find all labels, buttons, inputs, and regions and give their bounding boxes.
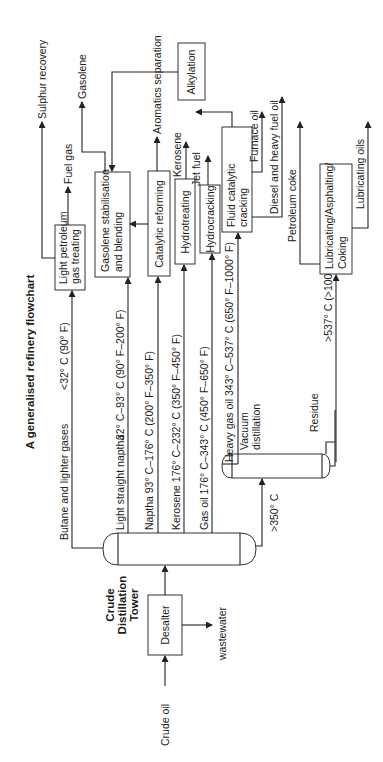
diagram-title: A generalised refinery flowchart — [24, 274, 36, 449]
butane-temp: <32° C (90° F) — [58, 322, 70, 390]
svg-text:and blending: and blending — [112, 212, 124, 272]
lsn-label: Light straight naptha — [114, 435, 126, 530]
crude-tower-label: Crude Distillation Tower — [104, 576, 140, 635]
lubricating-box: Lubricating/Asphalting/ Coking — [320, 163, 352, 274]
crude-distillation-tower — [103, 533, 256, 565]
fuelgas-label: Fuel gas — [62, 144, 74, 184]
lpg-treating-box: Light petroleum gas treating — [55, 211, 85, 290]
svg-text:Alkylation: Alkylation — [185, 49, 197, 94]
svg-text:Gasolene stabilisation: Gasolene stabilisation — [99, 169, 111, 272]
kerosene-stream-label: Kerosene 176° C–232° C (350° F–450° F) — [170, 334, 182, 530]
gasolene-arrow — [82, 102, 105, 172]
kerosene-product-label: Kerosene — [171, 132, 183, 177]
svg-text:Coking: Coking — [336, 236, 348, 269]
svg-text:distillation: distillation — [250, 404, 262, 450]
crude-oil-label: Crude oil — [159, 704, 171, 746]
hgo-label: Heavy gas oil 343° C–537° C (650° F–1000… — [223, 242, 235, 462]
svg-text:Distillation: Distillation — [116, 576, 128, 635]
svg-text:Lubricating/Asphalting/: Lubricating/Asphalting/ — [323, 163, 335, 269]
residue-label: Residue — [308, 393, 320, 432]
lsn-temp: 32° C–93° C (90° F–200° F) — [114, 309, 126, 440]
svg-text:gas treating: gas treating — [69, 229, 81, 284]
furnace-label: Furnace oil — [248, 110, 260, 162]
bottoms-label: >350° C — [268, 493, 280, 532]
svg-text:Tower: Tower — [128, 588, 140, 622]
hydrotreating-box: Hydrotreating — [175, 179, 195, 264]
coke-arrow — [300, 122, 320, 264]
hydrocracking-box: Hydrocracking — [200, 185, 220, 253]
gasolene-label: Gasolene — [76, 54, 88, 99]
svg-text:Light petroleum: Light petroleum — [57, 211, 69, 284]
sulphur-arrow — [42, 122, 55, 258]
alky-to-blending-line — [112, 72, 178, 171]
butane-line — [72, 291, 103, 548]
refinery-flowchart: A generalised refinery flowchart Crude o… — [0, 0, 383, 762]
svg-text:Vacuum: Vacuum — [238, 412, 250, 450]
wastewater-label: wastewater — [216, 606, 228, 661]
bottoms-line — [256, 479, 262, 546]
diesel-label: Diesel and heavy fuel oil — [268, 100, 280, 214]
svg-text:Crude: Crude — [104, 588, 116, 621]
svg-text:Fluid catalytic: Fluid catalytic — [225, 163, 237, 227]
sulphur-label: Sulphur recovery — [36, 39, 48, 119]
aromatics-label: Aromatics separation — [151, 35, 163, 134]
fcc-to-alky-line — [196, 112, 232, 127]
gasolene-blending-box: Gasolene stabilisation and blending — [95, 169, 130, 277]
svg-text:cracking: cracking — [237, 188, 249, 227]
naptha-label: Naptha 93° C–176° C (200° F–350° F) — [143, 351, 155, 530]
svg-text:Catalytic reforming: Catalytic reforming — [153, 180, 165, 268]
alkylation-box: Alkylation — [178, 43, 205, 100]
vacuum-label: Vacuum distillation — [238, 404, 262, 450]
desalter-box: Desalter — [148, 595, 182, 655]
butane-label: Butane and lighter gases — [58, 424, 70, 540]
coke-label: Petroleum coke — [286, 169, 298, 242]
jetfuel-label: Jet fuel — [190, 152, 202, 186]
gasoil-label: Gas oil 176° C–343° C (450° F–650° F) — [198, 346, 210, 530]
svg-text:Hydrotreating: Hydrotreating — [179, 190, 191, 253]
catalytic-reforming-box: Catalytic reforming — [148, 171, 170, 276]
svg-text:Hydrocracking: Hydrocracking — [204, 185, 216, 252]
desalter-label: Desalter — [159, 605, 171, 645]
lubeoils-label: Lubricating oils — [354, 139, 366, 209]
